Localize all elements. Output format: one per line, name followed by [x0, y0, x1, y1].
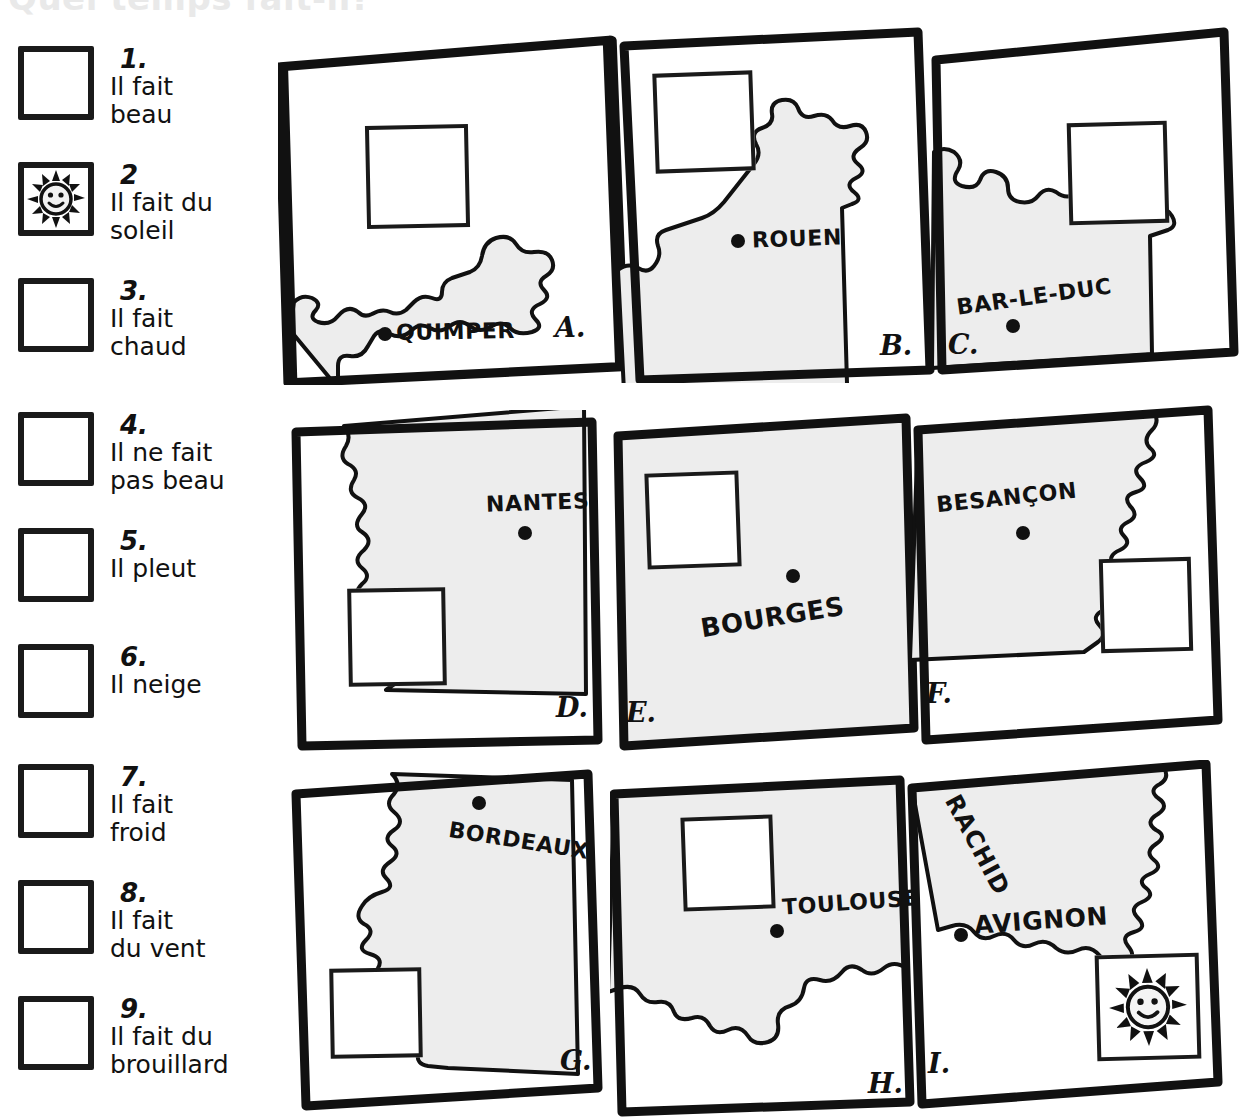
- map-panel-c[interactable]: BAR-LE-DUC C.: [928, 22, 1240, 382]
- city-dot-bordeaux: [472, 796, 486, 810]
- legend-text-6: 6. Il neige: [110, 644, 202, 699]
- legend-line: Il fait: [110, 73, 173, 101]
- legend-line: beau: [110, 101, 173, 129]
- list-item: 7. Il fait froid: [0, 764, 173, 846]
- legend-number-1: 1.: [120, 46, 173, 72]
- legend-line: Il fait: [110, 907, 205, 935]
- legend-text-7: 7. Il fait froid: [110, 764, 173, 846]
- answer-box-f[interactable]: [1099, 557, 1193, 653]
- map-panel-a[interactable]: QUIMPER A.: [278, 30, 628, 385]
- list-item: 5. Il pleut: [0, 528, 196, 602]
- legend-line: chaud: [110, 333, 187, 361]
- checkbox-1[interactable]: [18, 46, 94, 120]
- panel-letter-c: C.: [948, 329, 978, 360]
- legend-line: Il fait: [110, 305, 187, 333]
- city-dot-toulouse: [770, 924, 784, 938]
- legend-number-8: 8.: [120, 880, 205, 906]
- checkbox-5[interactable]: [18, 528, 94, 602]
- legend-text-2: 2 Il fait du soleil: [110, 162, 213, 244]
- legend-line: Il pleut: [110, 555, 196, 583]
- legend-line: du vent: [110, 935, 205, 963]
- checkbox-3[interactable]: [18, 278, 94, 352]
- map-panel-h[interactable]: TOULOUSE H.: [610, 772, 930, 1118]
- legend-line: Il ne fait: [110, 439, 225, 467]
- panel-letter-f: F.: [926, 678, 952, 709]
- legend-line: soleil: [110, 217, 213, 245]
- answer-box-c[interactable]: [1067, 121, 1170, 226]
- checkbox-9[interactable]: [18, 996, 94, 1070]
- list-item: 3. Il fait chaud: [0, 278, 187, 360]
- legend-line: Il fait du: [110, 1023, 229, 1051]
- panel-letter-e: E.: [626, 697, 656, 728]
- city-dot-rouen: [731, 234, 745, 248]
- city-dot-quimper: [378, 327, 392, 341]
- city-dot-avignon: [954, 928, 968, 942]
- list-item: 8. Il fait du vent: [0, 880, 205, 962]
- checkbox-8[interactable]: [18, 880, 94, 954]
- legend-line: Il neige: [110, 671, 202, 699]
- answer-box-h[interactable]: [680, 814, 775, 911]
- legend-number-6: 6.: [120, 644, 202, 670]
- panel-letter-b: B.: [880, 330, 912, 361]
- legend-line: Il fait: [110, 791, 173, 819]
- legend-line: brouillard: [110, 1051, 229, 1079]
- list-item: 4. Il ne fait pas beau: [0, 412, 225, 494]
- map-panel-b[interactable]: ROUEN B.: [618, 18, 948, 383]
- panel-letter-h: H.: [868, 1068, 903, 1099]
- map-panel-g[interactable]: BORDEAUX G.: [288, 768, 623, 1113]
- legend-number-5: 5.: [120, 528, 196, 554]
- legend-number-7: 7.: [120, 764, 173, 790]
- panel-letter-g: G.: [560, 1045, 592, 1076]
- legend-text-3: 3. Il fait chaud: [110, 278, 187, 360]
- legend-text-4: 4. Il ne fait pas beau: [110, 412, 225, 494]
- sun-icon: [24, 168, 88, 230]
- panel-letter-d: D.: [556, 692, 588, 723]
- answer-box-d[interactable]: [347, 587, 447, 687]
- list-item: 2 Il fait du soleil: [0, 162, 213, 244]
- answer-box-e[interactable]: [644, 470, 741, 569]
- panel-letter-i: I.: [928, 1048, 950, 1079]
- checkbox-4[interactable]: [18, 412, 94, 486]
- legend-line: Il fait du: [110, 189, 213, 217]
- city-label-rouen: ROUEN: [752, 224, 843, 252]
- city-dot-nantes: [518, 526, 532, 540]
- answer-box-i[interactable]: [1095, 953, 1202, 1062]
- legend-text-5: 5. Il pleut: [110, 528, 196, 583]
- city-dot-besancon: [1016, 526, 1030, 540]
- answer-box-g[interactable]: [329, 967, 423, 1059]
- checkbox-7[interactable]: [18, 764, 94, 838]
- city-dot-bourges: [786, 569, 800, 583]
- city-label-quimper: QUIMPER: [396, 318, 515, 345]
- sun-icon: [1104, 963, 1192, 1051]
- legend-number-4: 4.: [120, 412, 225, 438]
- list-item: 6. Il neige: [0, 644, 202, 718]
- legend-number-2: 2: [120, 162, 213, 188]
- weather-legend-list: 1. Il fait beau: [0, 40, 280, 1118]
- map-panel-e[interactable]: BOURGES E.: [608, 404, 920, 759]
- legend-text-1: 1. Il fait beau: [110, 46, 173, 128]
- map-panels-grid: QUIMPER A. ROUEN B. BAR-LE-DUC C. NANTES: [278, 0, 1240, 1118]
- answer-box-b[interactable]: [652, 70, 755, 173]
- checkbox-2[interactable]: [18, 162, 94, 236]
- legend-line: froid: [110, 819, 173, 847]
- legend-line: pas beau: [110, 467, 225, 495]
- checkbox-6[interactable]: [18, 644, 94, 718]
- list-item: 9. Il fait du brouillard: [0, 996, 229, 1078]
- legend-text-9: 9. Il fait du brouillard: [110, 996, 229, 1078]
- map-panel-f[interactable]: BESANÇON F.: [908, 400, 1240, 755]
- land-shape-e: [618, 418, 914, 746]
- list-item: 1. Il fait beau: [0, 46, 173, 128]
- map-panel-i[interactable]: RACHID AVIGNON: [906, 760, 1240, 1112]
- map-panel-d[interactable]: NANTES D.: [286, 410, 616, 755]
- legend-number-9: 9.: [120, 996, 229, 1022]
- land-shape-a: [290, 237, 553, 385]
- panel-letter-a: A.: [555, 312, 585, 343]
- city-dot-bar-le-duc: [1006, 319, 1020, 333]
- answer-box-a[interactable]: [365, 124, 470, 229]
- city-label-nantes: NANTES: [486, 488, 590, 517]
- legend-number-3: 3.: [120, 278, 187, 304]
- legend-text-8: 8. Il fait du vent: [110, 880, 205, 962]
